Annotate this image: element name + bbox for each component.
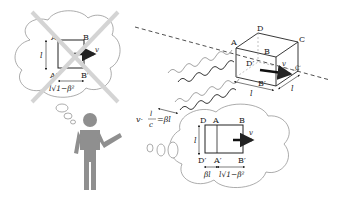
cube-velocity-label: v: [282, 60, 286, 68]
svg-text:l: l: [194, 136, 197, 145]
cube-velocity-arrow: [260, 70, 290, 74]
cube-label-D: D: [257, 24, 263, 33]
svg-text:v: v: [249, 129, 253, 137]
cube-label-C: C: [299, 35, 305, 44]
relativity-diagram: A B A′ B′ l l√1−β² v v A D C B D′ B′: [0, 0, 338, 210]
obs-label-B: B: [239, 116, 245, 125]
obs-label-D-prime: D′: [198, 156, 206, 165]
cube-label-A: A: [230, 38, 237, 47]
svg-text:βl: βl: [203, 170, 211, 179]
obs-label-D: D: [200, 116, 206, 125]
cube-label-D-prime: D′: [246, 59, 254, 68]
width-label: l√1−β²: [49, 84, 75, 93]
formula: v· l c =βl: [136, 109, 176, 129]
cube-label-B-prime: B′: [258, 79, 266, 88]
light-rays: [168, 50, 239, 110]
svg-text:=βl: =βl: [157, 115, 171, 124]
cube-label-B: B: [264, 47, 270, 56]
obs-label-B-prime: B′: [238, 156, 246, 165]
obs-label-A-prime: A′: [213, 156, 222, 165]
cube-edge-label-1: l: [250, 89, 253, 98]
velocity-label: v: [95, 46, 99, 54]
svg-text:v·: v·: [136, 115, 143, 124]
svg-text:l√1−β²: l√1−β²: [219, 170, 245, 179]
moving-cube: v A D C B D′ B′ C′ l l: [230, 24, 305, 98]
cube-label-C-prime: C′: [295, 64, 302, 71]
svg-text:c: c: [149, 121, 153, 129]
person-icon: [74, 113, 122, 190]
obs-label-A: A: [212, 116, 219, 125]
cube-edge-label-2: l: [291, 84, 294, 93]
naive-thought-bubble: A B A′ B′ l l√1−β² v: [15, 11, 120, 124]
height-label: l: [40, 51, 43, 60]
svg-text:l: l: [150, 110, 152, 118]
